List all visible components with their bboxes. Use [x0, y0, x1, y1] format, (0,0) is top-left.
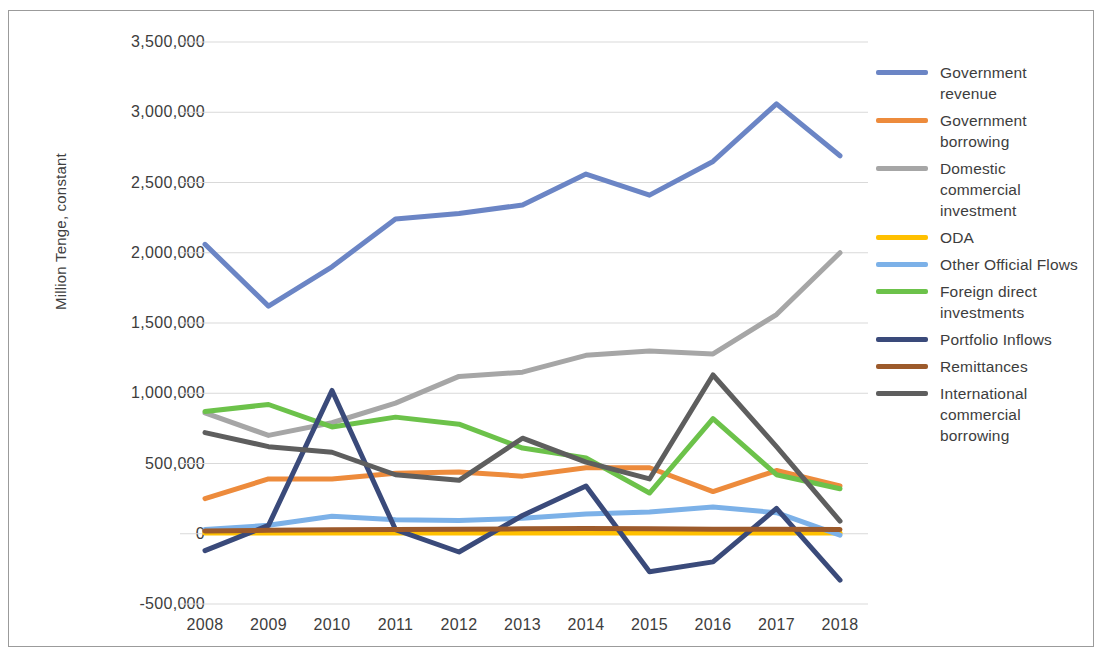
- x-axis-tick-label: 2017: [758, 616, 795, 634]
- legend-color-swatch: [876, 235, 928, 240]
- x-axis-tick-label: 2010: [314, 616, 351, 634]
- legend-color-swatch: [876, 166, 928, 171]
- x-axis-tick-label: 2013: [504, 616, 541, 634]
- x-axis-tick-label: 2011: [378, 616, 414, 634]
- legend-item[interactable]: Domestic commercial investment: [876, 158, 1091, 221]
- legend-label: ODA: [940, 227, 974, 248]
- legend-item[interactable]: Remittances: [876, 356, 1091, 377]
- x-axis-tick-label: 2012: [441, 616, 478, 634]
- legend-color-swatch: [876, 289, 928, 294]
- legend-label: Remittances: [940, 356, 1028, 377]
- legend-color-swatch: [876, 391, 928, 396]
- legend-item[interactable]: ODA: [876, 227, 1091, 248]
- legend-item[interactable]: Government revenue: [876, 62, 1091, 104]
- legend-label: Other Official Flows: [940, 254, 1078, 275]
- legend-item[interactable]: Government borrowing: [876, 110, 1091, 152]
- x-axis-tick-label: 2016: [695, 616, 732, 634]
- legend-label: Portfolio Inflows: [940, 329, 1052, 350]
- series-line: [205, 528, 840, 531]
- series-line: [205, 468, 840, 499]
- legend-label: Government borrowing: [940, 110, 1080, 152]
- legend-label: International commercial borrowing: [940, 383, 1080, 446]
- chart-container: Million Tenge, constant 3,500,0003,000,0…: [0, 0, 1105, 662]
- legend-color-swatch: [876, 262, 928, 267]
- x-axis-tick-label: 2018: [822, 616, 859, 634]
- series-line: [205, 390, 840, 580]
- chart-legend: Government revenueGovernment borrowingDo…: [876, 62, 1091, 452]
- x-axis-tick-label: 2008: [187, 616, 224, 634]
- x-axis-tick-label: 2009: [250, 616, 287, 634]
- legend-item[interactable]: Portfolio Inflows: [876, 329, 1091, 350]
- legend-color-swatch: [876, 364, 928, 369]
- legend-item[interactable]: Foreign direct investments: [876, 281, 1091, 323]
- legend-item[interactable]: International commercial borrowing: [876, 383, 1091, 446]
- legend-color-swatch: [876, 70, 928, 75]
- x-axis-tick-label: 2014: [568, 616, 605, 634]
- legend-item[interactable]: Other Official Flows: [876, 254, 1091, 275]
- series-line: [205, 104, 840, 306]
- legend-label: Foreign direct investments: [940, 281, 1080, 323]
- legend-color-swatch: [876, 337, 928, 342]
- x-axis-tick-label: 2015: [631, 616, 668, 634]
- legend-label: Government revenue: [940, 62, 1080, 104]
- legend-color-swatch: [876, 118, 928, 123]
- legend-label: Domestic commercial investment: [940, 158, 1080, 221]
